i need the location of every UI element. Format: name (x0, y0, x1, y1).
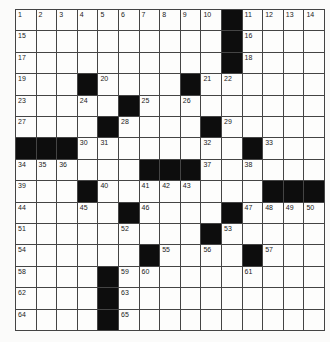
grid-cell[interactable] (263, 310, 283, 330)
grid-cell[interactable] (119, 74, 139, 94)
grid-cell[interactable] (243, 181, 263, 201)
grid-cell[interactable] (201, 31, 221, 51)
grid-cell[interactable] (160, 53, 180, 73)
grid-cell[interactable] (78, 224, 98, 244)
grid-cell[interactable] (78, 267, 98, 287)
grid-cell[interactable]: 5 (98, 10, 118, 30)
grid-cell[interactable] (119, 245, 139, 265)
grid-cell[interactable]: 32 (201, 138, 221, 158)
grid-cell[interactable] (304, 96, 324, 116)
grid-cell[interactable] (201, 96, 221, 116)
grid-cell[interactable] (78, 160, 98, 180)
grid-cell[interactable]: 36 (57, 160, 77, 180)
grid-cell[interactable]: 45 (78, 203, 98, 223)
grid-cell[interactable] (243, 288, 263, 308)
grid-cell[interactable] (284, 224, 304, 244)
grid-cell[interactable] (37, 181, 57, 201)
grid-cell[interactable] (222, 96, 242, 116)
grid-cell[interactable] (222, 267, 242, 287)
grid-cell[interactable] (284, 117, 304, 137)
grid-cell[interactable]: 16 (243, 31, 263, 51)
grid-cell[interactable]: 18 (243, 53, 263, 73)
grid-cell[interactable]: 33 (263, 138, 283, 158)
grid-cell[interactable] (37, 288, 57, 308)
grid-cell[interactable]: 12 (263, 10, 283, 30)
grid-cell[interactable] (98, 203, 118, 223)
grid-cell[interactable] (201, 288, 221, 308)
grid-cell[interactable] (37, 245, 57, 265)
grid-cell[interactable] (98, 96, 118, 116)
grid-cell[interactable] (160, 310, 180, 330)
grid-cell[interactable]: 47 (243, 203, 263, 223)
grid-cell[interactable] (284, 96, 304, 116)
grid-cell[interactable] (37, 31, 57, 51)
grid-cell[interactable] (57, 53, 77, 73)
grid-cell[interactable]: 64 (16, 310, 36, 330)
grid-cell[interactable]: 55 (160, 245, 180, 265)
grid-cell[interactable]: 52 (119, 224, 139, 244)
grid-cell[interactable]: 62 (16, 288, 36, 308)
grid-cell[interactable]: 37 (201, 160, 221, 180)
grid-cell[interactable] (304, 117, 324, 137)
grid-cell[interactable] (181, 245, 201, 265)
grid-cell[interactable] (57, 224, 77, 244)
grid-cell[interactable] (263, 160, 283, 180)
grid-cell[interactable] (263, 53, 283, 73)
grid-cell[interactable] (304, 138, 324, 158)
grid-cell[interactable]: 24 (78, 96, 98, 116)
grid-cell[interactable]: 56 (201, 245, 221, 265)
grid-cell[interactable] (284, 160, 304, 180)
grid-cell[interactable] (160, 224, 180, 244)
grid-cell[interactable]: 21 (201, 74, 221, 94)
grid-cell[interactable]: 54 (16, 245, 36, 265)
grid-cell[interactable] (140, 53, 160, 73)
grid-cell[interactable] (57, 288, 77, 308)
grid-cell[interactable] (57, 203, 77, 223)
grid-cell[interactable] (263, 117, 283, 137)
grid-cell[interactable] (140, 117, 160, 137)
grid-cell[interactable] (304, 267, 324, 287)
grid-cell[interactable] (201, 181, 221, 201)
grid-cell[interactable] (222, 160, 242, 180)
grid-cell[interactable] (304, 224, 324, 244)
grid-cell[interactable] (263, 96, 283, 116)
grid-cell[interactable]: 13 (284, 10, 304, 30)
grid-cell[interactable]: 19 (16, 74, 36, 94)
grid-cell[interactable]: 63 (119, 288, 139, 308)
grid-cell[interactable] (304, 310, 324, 330)
grid-cell[interactable]: 51 (16, 224, 36, 244)
grid-cell[interactable] (160, 138, 180, 158)
grid-cell[interactable]: 8 (160, 10, 180, 30)
grid-cell[interactable] (140, 31, 160, 51)
grid-cell[interactable] (57, 267, 77, 287)
grid-cell[interactable] (222, 245, 242, 265)
grid-cell[interactable] (78, 288, 98, 308)
grid-cell[interactable] (160, 31, 180, 51)
grid-cell[interactable]: 50 (304, 203, 324, 223)
grid-cell[interactable] (160, 74, 180, 94)
grid-cell[interactable] (37, 203, 57, 223)
grid-cell[interactable] (263, 267, 283, 287)
grid-cell[interactable] (57, 74, 77, 94)
grid-cell[interactable] (98, 31, 118, 51)
grid-cell[interactable] (78, 245, 98, 265)
grid-cell[interactable] (57, 181, 77, 201)
grid-cell[interactable]: 42 (160, 181, 180, 201)
grid-cell[interactable] (98, 245, 118, 265)
grid-cell[interactable] (140, 310, 160, 330)
grid-cell[interactable] (181, 310, 201, 330)
grid-cell[interactable]: 35 (37, 160, 57, 180)
grid-cell[interactable]: 60 (140, 267, 160, 287)
grid-cell[interactable] (263, 224, 283, 244)
grid-cell[interactable] (304, 53, 324, 73)
grid-cell[interactable]: 46 (140, 203, 160, 223)
grid-cell[interactable] (160, 117, 180, 137)
grid-cell[interactable] (263, 31, 283, 51)
grid-cell[interactable] (284, 267, 304, 287)
grid-cell[interactable] (140, 74, 160, 94)
grid-cell[interactable] (243, 224, 263, 244)
grid-cell[interactable] (284, 245, 304, 265)
grid-cell[interactable]: 65 (119, 310, 139, 330)
grid-cell[interactable] (57, 96, 77, 116)
grid-cell[interactable]: 61 (243, 267, 263, 287)
